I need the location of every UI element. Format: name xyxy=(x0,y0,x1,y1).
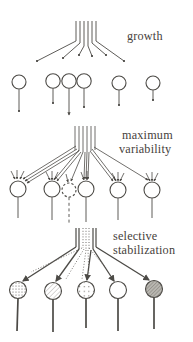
growth-axon-fan xyxy=(37,21,124,61)
neuron xyxy=(46,74,60,88)
stabilization-axon-bundle xyxy=(76,228,96,249)
neuron-light-hatch xyxy=(45,283,62,300)
stabilization-stage: selective stabilization xyxy=(10,228,176,332)
growth-label: growth xyxy=(127,29,163,43)
variability-axon-bundle xyxy=(75,126,95,152)
neuron-empty xyxy=(110,282,127,299)
transient-neuron-dashed xyxy=(62,183,76,197)
variability-neuron-axons xyxy=(18,197,152,223)
growth-neuron-axons xyxy=(19,88,153,115)
neuron xyxy=(62,74,76,88)
neuron-sparse-dots xyxy=(78,282,95,299)
variability-stage: maximum variability xyxy=(10,126,173,223)
neuron xyxy=(44,181,60,197)
stabilization-label-line1: selective xyxy=(113,229,157,243)
neuron xyxy=(77,74,91,88)
selective-stabilization-diagram: growth xyxy=(0,0,193,342)
neuron xyxy=(146,76,160,90)
variability-neuron-row xyxy=(10,181,160,198)
neuron-dense-hatch-gray xyxy=(146,281,163,298)
variability-label-line1: maximum xyxy=(122,128,173,142)
neuron-stippled xyxy=(10,282,27,299)
neuron xyxy=(10,181,26,197)
stabilization-label-line2: stabilization xyxy=(113,243,175,257)
neuron xyxy=(112,76,126,90)
stabilization-neuron-row xyxy=(10,281,163,300)
diagram-canvas: growth xyxy=(0,0,193,342)
neuron xyxy=(78,181,94,197)
neuron xyxy=(144,182,160,198)
growth-neuron-row xyxy=(12,74,160,90)
neuron xyxy=(12,75,26,89)
variability-label-line2: variability xyxy=(119,142,172,156)
stabilization-neuron-axons xyxy=(17,298,154,333)
growth-stage: growth xyxy=(12,21,163,115)
neuron xyxy=(110,182,126,198)
